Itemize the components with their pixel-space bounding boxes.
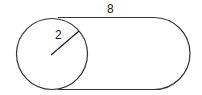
geometry-diagram: 2 8 <box>0 0 202 95</box>
length-label: 8 <box>107 2 114 16</box>
radius-label: 2 <box>55 28 62 42</box>
